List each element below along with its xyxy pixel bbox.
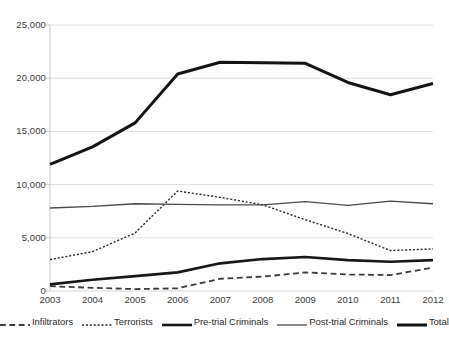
x-axis: 2003200420052006200720082009201020112012 <box>0 292 441 310</box>
thick-solid-line-swatch <box>162 316 192 326</box>
axis-lines <box>46 25 50 291</box>
gridlines <box>50 25 433 291</box>
legend-item-label: Terrorists <box>114 316 153 327</box>
x-axis-tick-label: 2003 <box>39 294 60 305</box>
series-line-post-trial-criminals <box>50 201 433 208</box>
legend-item-post-trial-criminals[interactable]: Post-trial Criminals <box>277 316 388 327</box>
x-axis-tick-label: 2011 <box>380 294 400 305</box>
y-axis-tick-label: 5,000 <box>2 233 46 243</box>
y-axis-tick-label: 25,000 <box>2 20 46 30</box>
y-axis-tick-label: 20,000 <box>2 73 46 83</box>
series-line-total <box>50 62 433 164</box>
legend-item-total[interactable]: Total <box>397 316 449 327</box>
dotted-line-swatch <box>82 316 112 326</box>
legend-item-label: Infiltrators <box>32 316 73 327</box>
data-series <box>50 62 433 289</box>
legend-item-label: Total <box>429 316 449 327</box>
series-line-terrorists <box>50 191 433 260</box>
thick-solid-line-swatch <box>397 316 427 326</box>
x-axis-tick-label: 2005 <box>125 294 146 305</box>
y-axis-tick-label: 15,000 <box>2 126 46 136</box>
x-axis-tick-label: 2004 <box>82 294 103 305</box>
chart-legend: InfiltratorsTerroristsPre-trial Criminal… <box>0 311 441 331</box>
x-axis-tick-label: 2012 <box>422 294 443 305</box>
legend-item-pre-trial-criminals[interactable]: Pre-trial Criminals <box>162 316 269 327</box>
y-axis-tick-label: 10,000 <box>2 180 46 190</box>
y-axis: 25,00020,00015,00010,0005,0000 <box>0 0 46 300</box>
dashed-line-swatch <box>0 316 30 326</box>
x-axis-tick-label: 2009 <box>295 294 316 305</box>
x-axis-tick-label: 2007 <box>210 294 231 305</box>
legend-item-terrorists[interactable]: Terrorists <box>82 316 153 327</box>
x-axis-tick-label: 2006 <box>167 294 188 305</box>
legend-item-label: Post-trial Criminals <box>309 316 388 327</box>
x-axis-tick-label: 2008 <box>252 294 273 305</box>
series-line-pre-trial-criminals <box>50 257 433 284</box>
legend-item-label: Pre-trial Criminals <box>194 316 269 327</box>
legend-item-infiltrators[interactable]: Infiltrators <box>0 316 73 327</box>
x-axis-tick-label: 2010 <box>337 294 358 305</box>
thin-solid-line-swatch <box>277 316 307 326</box>
